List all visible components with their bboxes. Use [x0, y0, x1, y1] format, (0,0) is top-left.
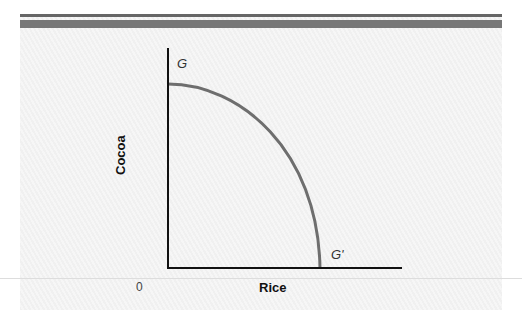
ppf-curve [168, 84, 320, 268]
origin-label: 0 [136, 280, 143, 294]
point-label-g: G [177, 56, 187, 71]
x-axis-title: Rice [259, 280, 286, 295]
y-axis-title: Cocoa [113, 135, 128, 175]
chart-plot [0, 0, 522, 324]
point-label-g-prime: G' [331, 247, 344, 262]
